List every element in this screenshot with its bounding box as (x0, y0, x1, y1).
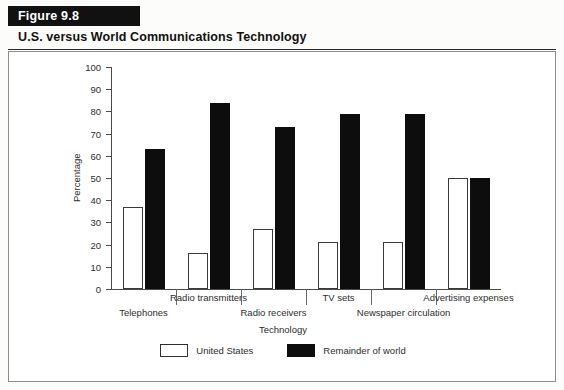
figure-number-band: Figure 9.8 (8, 6, 140, 26)
x-axis-category-label: TV sets (322, 292, 354, 303)
y-axis-tick-mark (106, 222, 111, 223)
bar-united-states (318, 242, 338, 289)
y-axis-tick-label: 20 (67, 239, 101, 250)
bar-remainder-of-world (405, 114, 425, 289)
y-axis-tick-mark (106, 178, 111, 179)
x-axis-category-label: Radio transmitters (170, 292, 247, 303)
y-axis-tick-mark (106, 111, 111, 112)
y-axis-tick-mark (106, 134, 111, 135)
y-axis-tick-label: 60 (67, 150, 101, 161)
x-axis-category-label: Radio receivers (241, 307, 307, 318)
bar-united-states (123, 207, 143, 289)
legend-swatch-united-states (160, 344, 188, 357)
bar-remainder-of-world (470, 178, 490, 289)
plot-area: Percentage Technology United StatesRemai… (9, 52, 557, 383)
y-axis-tick-mark (106, 156, 111, 157)
category-separator (306, 289, 307, 305)
x-axis-category-label: Newspaper circulation (357, 307, 450, 318)
bar-united-states (253, 229, 273, 289)
y-axis-line (111, 67, 112, 289)
category-separator (241, 289, 242, 305)
y-axis-tick-mark (106, 267, 111, 268)
y-axis-tick-mark (106, 245, 111, 246)
y-axis-tick-label: 30 (67, 217, 101, 228)
chart-frame: Percentage Technology United StatesRemai… (8, 51, 556, 382)
figure-title-bar: U.S. versus World Communications Technol… (8, 26, 556, 50)
chart-legend: United StatesRemainder of world (9, 344, 557, 357)
bar-united-states (188, 253, 208, 289)
x-axis-category-label: Advertising expenses (423, 292, 513, 303)
figure-page: Figure 9.8 U.S. versus World Communicati… (0, 0, 564, 390)
bar-remainder-of-world (275, 127, 295, 289)
y-axis-tick-mark (106, 89, 111, 90)
y-axis-tick-label: 0 (67, 284, 101, 295)
y-axis-title: Percentage (71, 82, 82, 202)
y-axis-tick-label: 50 (67, 173, 101, 184)
y-axis-tick-label: 90 (67, 84, 101, 95)
legend-item: United States (160, 344, 253, 357)
x-axis-title: Technology (9, 324, 557, 335)
y-axis-tick-label: 40 (67, 195, 101, 206)
bar-remainder-of-world (210, 103, 230, 289)
bar-remainder-of-world (145, 149, 165, 289)
y-axis-tick-label: 100 (67, 62, 101, 73)
figure-number-label: Figure 9.8 (8, 6, 140, 26)
y-axis-tick-mark (106, 67, 111, 68)
y-axis-tick-label: 10 (67, 261, 101, 272)
legend-label: Remainder of world (323, 345, 405, 356)
legend-item: Remainder of world (287, 344, 405, 357)
y-axis-tick-label: 70 (67, 128, 101, 139)
y-axis-tick-label: 80 (67, 106, 101, 117)
y-axis-tick-mark (106, 289, 111, 290)
bar-united-states (448, 178, 468, 289)
legend-label: United States (196, 345, 253, 356)
x-axis-category-label: Telephones (119, 307, 168, 318)
category-separator (371, 289, 372, 305)
y-axis-tick-mark (106, 200, 111, 201)
legend-swatch-remainder-of-world (287, 344, 315, 357)
figure-title: U.S. versus World Communications Technol… (8, 26, 556, 48)
bar-united-states (383, 242, 403, 289)
bar-remainder-of-world (340, 114, 360, 289)
